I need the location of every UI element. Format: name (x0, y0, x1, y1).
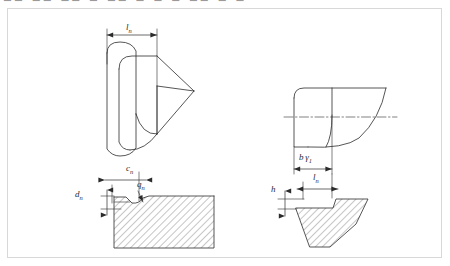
outer-left-edge (107, 53, 136, 156)
top-cropped-text: ▃▃ ▃▃ ▃▃ ▃ ▃▃ ▃ ▃ ▃ ▃▃ ▃ ▃ (4, 0, 247, 1)
technical-drawing-canvas (8, 9, 441, 257)
profile-right-curve (308, 88, 386, 147)
profile-inner-divider (326, 88, 332, 147)
upper-left-view (107, 29, 194, 156)
label-qn: qn (137, 180, 145, 191)
label-b-gamma1: b γ1 (299, 153, 312, 164)
inner-left-edge (119, 69, 130, 150)
lower-right-detail (278, 174, 368, 247)
wedge-top-edge (157, 56, 194, 91)
wedge-upper-chord (157, 86, 194, 91)
top-cropped-text-strip: ▃▃ ▃▃ ▃▃ ▃ ▃▃ ▃ ▃ ▃ ▃▃ ▃ ▃ (0, 0, 450, 7)
wedge-lower-chord (157, 91, 194, 134)
profile-top-left-arc (294, 88, 386, 98)
label-ln-upper-left: ln (126, 23, 132, 34)
label-ln-lower-right: ln (313, 173, 319, 184)
label-dn: dn (75, 190, 83, 201)
profile-left-edge (294, 98, 308, 147)
outer-bottom-fillet (136, 114, 157, 134)
wedge-bottom-fillet (130, 134, 157, 150)
figure-frame: ln cn qn dn b γ1 h ln (7, 8, 442, 258)
lower-left-detail (101, 172, 214, 248)
inner-top-arc (119, 56, 157, 69)
label-h: h (271, 185, 276, 194)
label-cn: cn (126, 164, 133, 175)
body-hatch-fill (114, 196, 214, 248)
right-body-hatch-fill (296, 199, 368, 247)
outer-top-arc (107, 42, 136, 114)
figure-page: ▃▃ ▃▃ ▃▃ ▃ ▃▃ ▃ ▃ ▃ ▃▃ ▃ ▃ (0, 0, 450, 266)
